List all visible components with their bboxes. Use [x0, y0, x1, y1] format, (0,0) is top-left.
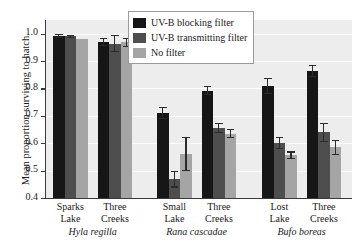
- y-axis-tick-label: 0.4: [26, 191, 39, 202]
- error-bar-cap: [100, 45, 108, 46]
- error-bar-cap: [332, 154, 340, 155]
- bar: [225, 134, 237, 198]
- error-bar-cap: [55, 37, 63, 38]
- error-bar-cap: [227, 137, 235, 138]
- error-bar: [207, 86, 208, 95]
- bar: [98, 42, 110, 198]
- bar: [318, 132, 330, 198]
- error-bar-cap: [182, 137, 190, 138]
- y-axis-tick-mark: [41, 198, 45, 199]
- error-bar: [267, 78, 268, 94]
- error-bar-cap: [320, 141, 328, 142]
- legend-item: No filter: [133, 45, 247, 60]
- error-bar-cap: [204, 86, 212, 87]
- error-bar-cap: [287, 158, 295, 159]
- site-name-line1: Three: [189, 201, 249, 213]
- error-bar: [230, 129, 231, 138]
- x-axis-species-label: Hyla regilla: [33, 226, 153, 237]
- error-bar-cap: [287, 151, 295, 152]
- error-bar: [162, 107, 163, 119]
- y-axis-tick-label: 0.6: [26, 136, 39, 147]
- error-bar-cap: [309, 76, 317, 77]
- error-bar-cap: [215, 132, 223, 133]
- bar: [213, 128, 225, 198]
- error-bar-cap: [264, 78, 272, 79]
- error-bar-cap: [332, 140, 340, 141]
- bar: [307, 71, 319, 198]
- error-bar: [126, 38, 127, 47]
- bar: [262, 86, 274, 198]
- error-bar-cap: [100, 38, 108, 39]
- y-axis-tick-label: 0.9: [26, 54, 39, 65]
- legend-label-uvb-transmitting: UV-B transmitting filter: [151, 32, 247, 43]
- bar: [65, 36, 77, 198]
- error-bar: [103, 38, 104, 46]
- error-bar-cap: [215, 123, 223, 124]
- error-bar-cap: [276, 137, 284, 138]
- bar: [121, 42, 133, 198]
- legend-swatch-no-filter: [133, 48, 146, 58]
- error-bar-cap: [182, 170, 190, 171]
- error-bar-cap: [67, 37, 75, 38]
- error-bar: [279, 137, 280, 149]
- y-axis-tick-label: 0.5: [26, 163, 39, 174]
- bar: [109, 44, 121, 198]
- error-bar: [290, 151, 291, 159]
- error-bar-cap: [171, 186, 179, 187]
- legend: UV-B blocking filter UV-B transmitting f…: [128, 11, 254, 64]
- error-bar-cap: [111, 51, 119, 52]
- bar: [53, 36, 65, 198]
- y-axis-tick-label: 0.7: [26, 108, 39, 119]
- error-bar-cap: [67, 35, 75, 36]
- error-bar: [185, 137, 186, 171]
- y-axis-tick-label: 0.8: [26, 81, 39, 92]
- bar: [285, 155, 297, 198]
- legend-item: UV-B transmitting filter: [133, 30, 247, 45]
- error-bar-cap: [111, 35, 119, 36]
- bar: [202, 91, 214, 198]
- error-bar-cap: [171, 171, 179, 172]
- x-axis-site-label: ThreeCreeks: [85, 201, 145, 224]
- error-bar-cap: [276, 148, 284, 149]
- legend-item: UV-B blocking filter: [133, 15, 247, 30]
- site-name-line2: Creeks: [294, 213, 353, 225]
- error-bar: [114, 35, 115, 51]
- x-axis-site-label: ThreeCreeks: [294, 201, 353, 224]
- figure: Mean proportion surviving to hatch 0.40.…: [0, 0, 353, 246]
- site-name-line2: Creeks: [189, 213, 249, 225]
- x-axis-line: [45, 198, 352, 199]
- error-bar-cap: [320, 123, 328, 124]
- bar: [76, 39, 88, 198]
- error-bar-cap: [204, 94, 212, 95]
- error-bar-cap: [159, 107, 167, 108]
- error-bar: [312, 65, 313, 77]
- error-bar-cap: [159, 118, 167, 119]
- error-bar-cap: [227, 129, 235, 130]
- error-bar: [323, 123, 324, 142]
- error-bar: [174, 171, 175, 187]
- site-name-line2: Creeks: [85, 213, 145, 225]
- error-bar: [58, 34, 59, 38]
- x-axis-species-label: Bufo boreas: [242, 226, 353, 237]
- error-bar-cap: [55, 34, 63, 35]
- error-bar: [218, 123, 219, 133]
- legend-label-no-filter: No filter: [151, 47, 185, 58]
- x-axis-species-label: Rana cascadae: [137, 226, 257, 237]
- x-axis-site-label: ThreeCreeks: [189, 201, 249, 224]
- error-bar-cap: [264, 93, 272, 94]
- error-bar-cap: [309, 65, 317, 66]
- bar: [274, 143, 286, 198]
- legend-swatch-uvb-transmitting: [133, 33, 146, 43]
- error-bar: [70, 35, 71, 38]
- site-name-line1: Three: [85, 201, 145, 213]
- legend-label-uvb-blocking: UV-B blocking filter: [151, 17, 234, 28]
- y-axis-tick-label: 1.0: [26, 26, 39, 37]
- site-name-line1: Three: [294, 201, 353, 213]
- error-bar: [335, 140, 336, 155]
- bar: [157, 113, 169, 198]
- legend-swatch-uvb-blocking: [133, 18, 146, 28]
